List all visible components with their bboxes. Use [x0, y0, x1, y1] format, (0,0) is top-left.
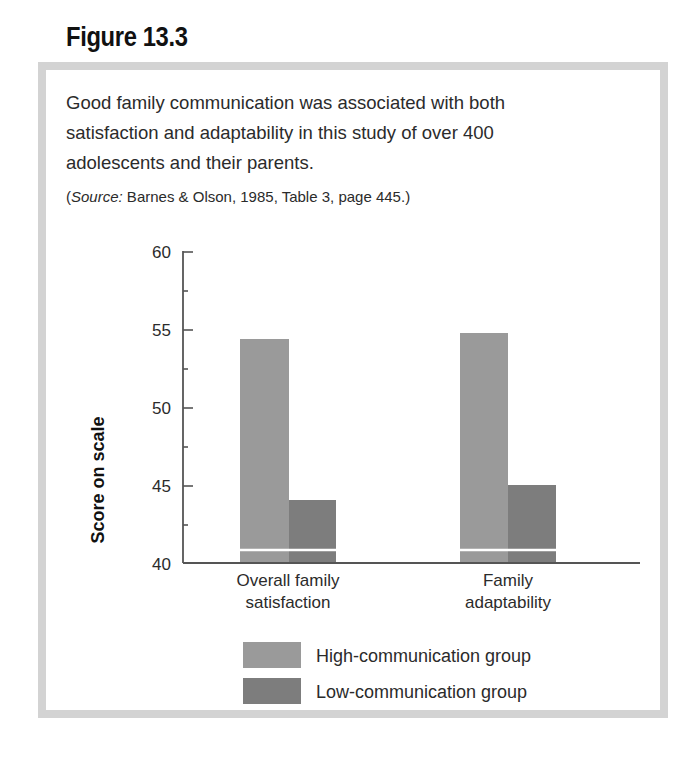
- bar-low-communication-family-adaptability: [508, 485, 556, 563]
- bar-high-communication-family-adaptability: [460, 333, 508, 563]
- y-tick-label-55: 55: [152, 321, 171, 340]
- y-tick-label-60: 60: [152, 243, 171, 262]
- chart-svg: Score on scale 60 55 50 45 40: [46, 70, 660, 710]
- legend-label-high-communication: High-communication group: [316, 646, 531, 666]
- figure-frame: Good family communication was associated…: [38, 62, 668, 718]
- figure-frame-inner: Good family communication was associated…: [46, 70, 660, 710]
- bar-low-communication-overall-family-satisfaction: [289, 500, 336, 563]
- x-category-label-1-line-2: satisfaction: [245, 593, 330, 612]
- bar-chart: Score on scale 60 55 50 45 40: [46, 70, 660, 710]
- x-category-label-1-line-1: Overall family: [237, 571, 340, 590]
- bar-high-communication-overall-family-satisfaction: [240, 339, 289, 563]
- figure-number-heading: Figure 13.3: [66, 22, 188, 53]
- chart-legend: High-communication group Low-communicati…: [243, 642, 531, 704]
- legend-swatch-low-communication: [243, 678, 301, 704]
- y-tick-label-45: 45: [152, 477, 171, 496]
- legend-label-low-communication: Low-communication group: [316, 682, 527, 702]
- y-axis-title: Score on scale: [88, 416, 108, 543]
- y-tick-label-40: 40: [152, 555, 171, 574]
- y-tick-label-50: 50: [152, 399, 171, 418]
- x-category-label-2-line-1: Family: [483, 571, 534, 590]
- x-category-label-2-line-2: adaptability: [465, 593, 552, 612]
- legend-swatch-high-communication: [243, 642, 301, 668]
